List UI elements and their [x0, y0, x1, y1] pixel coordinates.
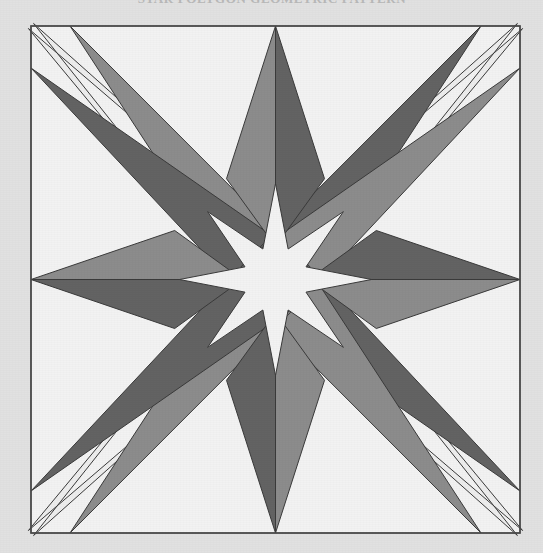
inner-light-star — [180, 184, 372, 376]
star-figure — [0, 0, 543, 553]
caption-strip: STAR POLYGON GEOMETRIC PATTERN — [0, 0, 543, 7]
figure-page: STAR POLYGON GEOMETRIC PATTERN — [0, 0, 543, 553]
figure-caption: STAR POLYGON GEOMETRIC PATTERN — [62, 0, 482, 7]
